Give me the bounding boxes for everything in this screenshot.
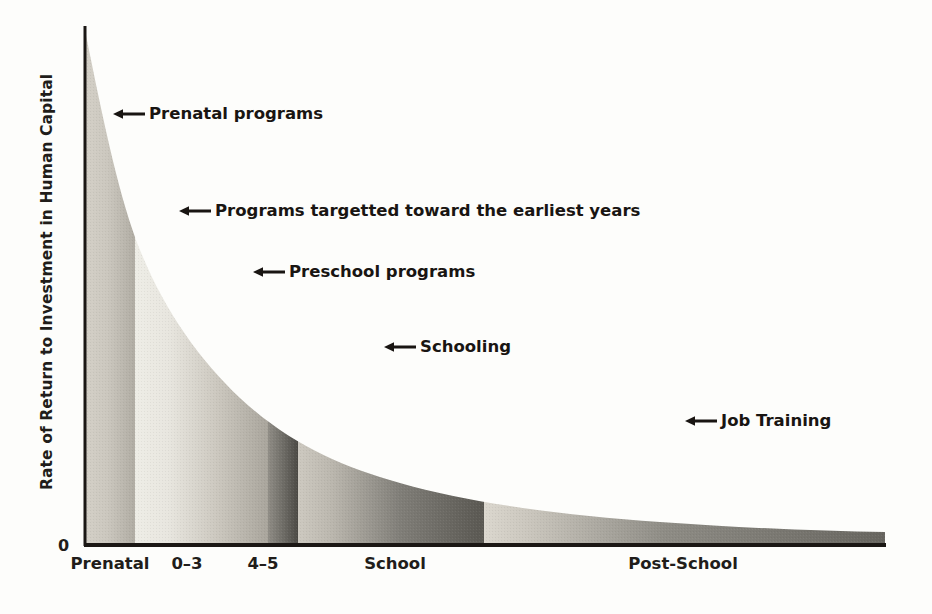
x-tick-0-3: 0–3 (171, 554, 202, 573)
chart-figure: Rate of Return to Investment in Human Ca… (0, 0, 932, 614)
annotation-preschool-programs: Preschool programs (252, 262, 475, 281)
annotation-prenatal-programs: Prenatal programs (112, 104, 323, 123)
annotation-label: Prenatal programs (149, 104, 323, 123)
left-arrow-icon (252, 265, 286, 279)
x-tick-school: School (364, 554, 426, 573)
annotation-label: Programs targetted toward the earliest y… (215, 201, 640, 220)
curve-region (85, 20, 886, 548)
annotation-programs-targetted-earliest-years: Programs targetted toward the earliest y… (178, 201, 640, 220)
left-arrow-icon (112, 107, 146, 121)
annotation-label: Job Training (721, 411, 831, 430)
left-arrow-icon (178, 204, 212, 218)
halftone-overlay (85, 20, 886, 548)
annotation-label: Preschool programs (289, 262, 475, 281)
x-tick-4-5: 4–5 (247, 554, 278, 573)
x-tick-prenatal: Prenatal (71, 554, 150, 573)
band-post-school (484, 20, 886, 548)
left-arrow-icon (684, 414, 718, 428)
plot-area (0, 0, 932, 614)
annotation-job-training: Job Training (684, 411, 831, 430)
annotation-schooling: Schooling (383, 337, 511, 356)
annotation-label: Schooling (420, 337, 511, 356)
x-tick-post-school: Post-School (628, 554, 738, 573)
left-arrow-icon (383, 340, 417, 354)
